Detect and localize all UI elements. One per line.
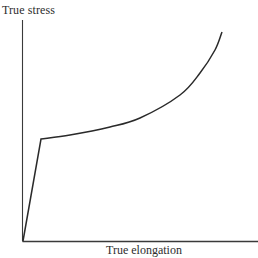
stress-strain-curve <box>23 32 222 241</box>
y-axis-label: True stress <box>2 3 55 18</box>
x-axis-label: True elongation <box>106 243 182 258</box>
stress-strain-chart: True stress True elongation <box>0 0 258 258</box>
chart-plot-area <box>0 0 258 258</box>
